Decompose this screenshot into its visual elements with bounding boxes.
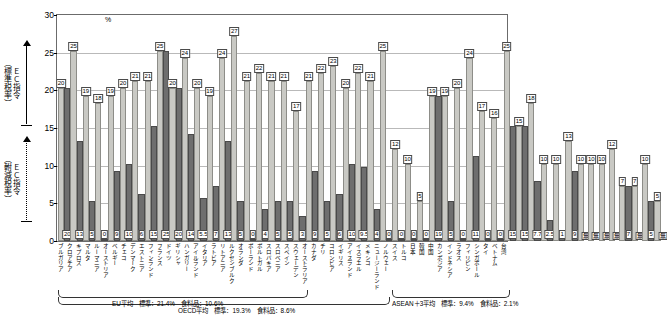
bar-group: 102.5 — [541, 15, 553, 241]
standard-rate-value: 24 — [180, 49, 190, 58]
x-axis-label-text: エストニア — [139, 243, 145, 289]
x-axis-label: ドイツ — [165, 243, 174, 289]
x-axis-label: アイスランド — [346, 243, 355, 289]
reduced-rate-label: （軵減税率） — [2, 155, 11, 203]
reduced-rate-note: （軵減税率） ＥＣ指令 — [2, 136, 32, 222]
x-axis-label: フランス — [156, 243, 165, 289]
x-axis-label-text: カンボジア — [437, 243, 443, 289]
bar-group: 236 — [330, 15, 342, 241]
x-axis-label: チェコ — [119, 243, 128, 289]
bar-group: 205.5 — [194, 15, 206, 241]
x-axis-label-text: トルコ — [401, 243, 407, 289]
bar-group: 170 — [479, 15, 491, 241]
standard-rate-value: 21 — [267, 72, 277, 81]
x-axis-label-text: イギリス — [338, 243, 344, 289]
standard-rate-bar: 25 — [380, 51, 386, 241]
standard-rate-value: 19 — [106, 87, 116, 96]
bar-group: 215 — [268, 15, 280, 241]
x-axis-label: ルーマニア — [92, 243, 101, 289]
bar-group: 139 — [565, 15, 577, 241]
x-axis-label-text: ドイツ — [166, 243, 172, 289]
standard-rate-value: 22 — [254, 64, 264, 73]
bar-group: 250 — [380, 15, 392, 241]
standard-rate-value: 12 — [390, 140, 400, 149]
x-axis-label-text: スウェーデン — [293, 243, 299, 289]
x-axis-label: フィリピン — [463, 243, 472, 289]
standard-rate-value: 20 — [192, 79, 202, 88]
x-axis-label-text: スペイン — [284, 243, 290, 289]
oecd-average-footnote: OECD平均 標準：19.3% 食料品：8.6% — [178, 306, 295, 315]
x-axis-label: 韓国 — [418, 243, 427, 289]
bar-group: 195 — [83, 15, 95, 241]
x-axis-label: シンガポール — [472, 243, 481, 289]
bar-group: 225 — [318, 15, 330, 241]
standard-rate-value: 7 — [632, 177, 638, 186]
x-axis-label: カンボジア — [436, 243, 445, 289]
x-axis-label: スロベニア — [273, 243, 282, 289]
x-axis-label-text: ラオス — [456, 243, 462, 289]
x-axis-label-text: ラトビア — [211, 243, 217, 289]
x-axis-label: アイルランド — [192, 243, 201, 289]
x-axis-label-text: クロアチア — [67, 243, 73, 289]
x-axis-label: リトアニア — [219, 243, 228, 289]
x-axis-label-text: オーストラリア — [302, 243, 308, 289]
x-axis-label: ポルトガル — [255, 243, 264, 289]
standard-rate-value: 20 — [118, 79, 128, 88]
asean-average-footnote: ASEAN＋3平均 標準：9.4% 食料品：2.1% — [392, 299, 518, 308]
standard-rate-value: 19 — [440, 87, 450, 96]
y-axis-tick-label: 10 — [45, 161, 54, 171]
x-axis-label: ベトナム — [490, 243, 499, 289]
x-axis-label-text: デンマーク — [130, 243, 136, 289]
standard-rate-bar: 12 — [609, 149, 615, 241]
axis-annotations: （標準税率） ＥＣ指令 （軵減税率） ＥＣ指令 — [0, 18, 46, 248]
x-axis-label: イスラエル — [355, 243, 364, 289]
x-axis-label: スイス — [391, 243, 400, 289]
standard-rate-value: 21 — [143, 72, 153, 81]
standard-rate-bar: 17 — [479, 111, 485, 241]
bar-group: 1515 — [516, 15, 528, 241]
bar-group: 12無 — [609, 15, 619, 241]
y-axis-tick-label: 15 — [45, 123, 54, 133]
bar-group: 101 — [553, 15, 565, 241]
standard-rate-value: 10 — [597, 155, 607, 164]
standard-rate-bar: 12 — [392, 149, 398, 241]
x-axis-label-text: ニュージーランド — [374, 243, 380, 289]
standard-rate-value: 16 — [489, 109, 499, 118]
x-axis-label-text: イスラエル — [356, 243, 362, 289]
x-axis-label-text: フィンランド — [148, 243, 154, 289]
standard-rate-value: 10 — [539, 155, 549, 164]
bar-group: 2010 — [343, 15, 355, 241]
standard-rate-bar: 10 — [588, 164, 594, 241]
standard-rate-bar: 10 — [599, 164, 605, 241]
reduced-range-arrow-icon — [21, 136, 32, 222]
bar-group: 10無 — [588, 15, 598, 241]
bar-group: 2515 — [504, 15, 516, 241]
x-axis-label: ブルガリア — [56, 243, 65, 289]
bar-group: 2411 — [466, 15, 478, 241]
standard-rate-bar: 21 — [244, 81, 250, 241]
x-axis-label-text: カナダ — [311, 243, 317, 289]
x-axis-label-text: チリ — [320, 243, 326, 289]
bar-group: 210 — [244, 15, 256, 241]
standard-rate-value: 15 — [514, 117, 524, 126]
x-axis-label: デンマーク — [128, 243, 137, 289]
x-axis-label: スウェーデン — [291, 243, 300, 289]
bar-group: 5無 — [654, 15, 664, 241]
bar-group: 7無 — [632, 15, 642, 241]
standard-rate-label: （標準税率） — [2, 59, 11, 107]
x-axis-label: メキシコ — [364, 243, 373, 289]
bar-group: 2525 — [157, 15, 169, 241]
x-axis-label-text: スロバキア — [266, 243, 272, 289]
x-axis-label: ハンガリー — [183, 243, 192, 289]
x-axis-label: ラトビア — [210, 243, 219, 289]
x-axis-label: スロバキア — [264, 243, 273, 289]
x-axis-label-text: 日本 — [410, 243, 416, 289]
ec-directive-label-reduced: ＥＣ指令 — [11, 163, 20, 195]
x-axis-label-text: ハンガリー — [184, 243, 190, 289]
bar-series: 2020251319518019920102162115252520202414… — [57, 15, 507, 241]
standard-rate-value: 17 — [477, 102, 487, 111]
x-axis-label-text: ベルギー — [112, 243, 118, 289]
standard-rate-value: 22 — [353, 64, 363, 73]
x-axis-label: ベルギー — [110, 243, 119, 289]
